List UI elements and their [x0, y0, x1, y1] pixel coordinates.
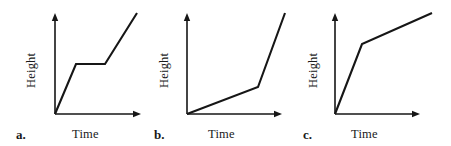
- panel-letter-b: b.: [154, 128, 164, 141]
- x-axis-arrowhead-a: [133, 111, 141, 117]
- x-axis-arrowhead-b: [274, 111, 282, 117]
- graph-panel-a: Height Time a.: [0, 0, 150, 146]
- x-axis-arrowhead-c: [412, 111, 420, 117]
- graph-panel-c: Height Time c.: [299, 0, 449, 146]
- panel-letter-a: a.: [16, 128, 26, 141]
- y-axis-arrowhead-c: [332, 13, 338, 21]
- data-curve-b: [187, 13, 285, 114]
- x-axis-label-a: Time: [72, 128, 99, 141]
- x-axis-label-b: Time: [208, 128, 235, 141]
- graph-panel-b: Height Time b.: [150, 0, 300, 146]
- graph-figure-row: Height Time a. Height Time b. Height Tim…: [0, 0, 451, 146]
- y-axis-arrowhead-b: [184, 13, 190, 21]
- data-curve-c: [335, 13, 432, 114]
- graph-a-drawing: [0, 0, 150, 146]
- y-axis-arrowhead-a: [52, 13, 58, 21]
- graph-c-drawing: [299, 0, 449, 146]
- y-axis-label-a: Height: [25, 53, 38, 88]
- x-axis-label-c: Time: [351, 128, 378, 141]
- y-axis-label-b: Height: [158, 53, 171, 88]
- graph-b-drawing: [150, 0, 300, 146]
- data-curve-a: [55, 13, 137, 114]
- panel-letter-c: c.: [303, 128, 312, 141]
- y-axis-label-c: Height: [307, 53, 320, 88]
